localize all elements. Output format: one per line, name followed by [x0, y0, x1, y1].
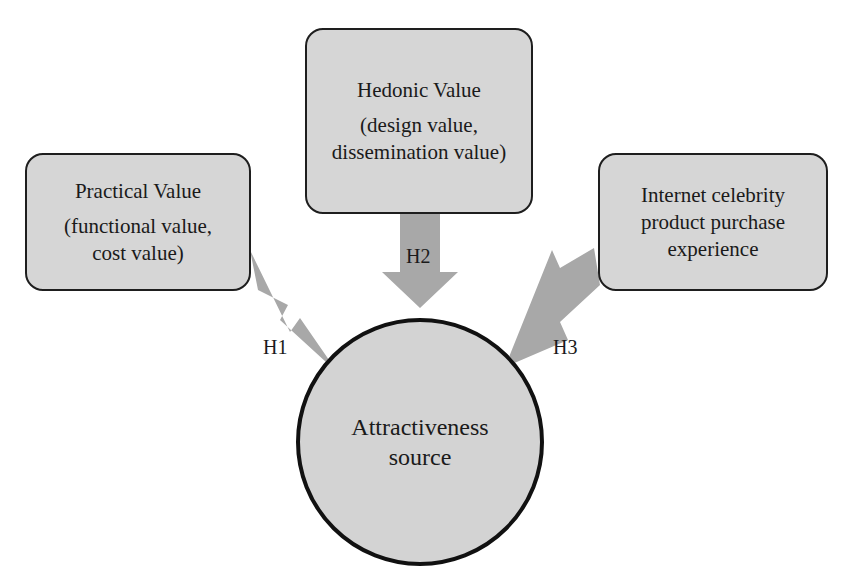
practical-value-detail-1: (functional value, [64, 213, 212, 240]
hedonic-value-detail-1: (design value, [360, 112, 478, 139]
diagram-canvas: Hedonic Value (design value, disseminati… [0, 0, 850, 587]
hedonic-value-box: Hedonic Value (design value, disseminati… [305, 28, 533, 214]
hedonic-value-detail-2: dissemination value) [332, 139, 506, 166]
purchase-experience-box: Internet celebrity product purchase expe… [598, 153, 828, 291]
purchase-experience-line-3: experience [668, 236, 759, 263]
hedonic-value-title: Hedonic Value [357, 77, 481, 104]
hypothesis-label-h2: H2 [406, 246, 430, 266]
attractiveness-source-line-2: source [389, 442, 452, 472]
practical-value-title: Practical Value [75, 178, 201, 205]
attractiveness-source-circle: Attractiveness source [296, 318, 544, 566]
hypothesis-label-h1: H1 [263, 337, 287, 357]
practical-value-box: Practical Value (functional value, cost … [25, 153, 251, 291]
purchase-experience-line-2: product purchase [641, 209, 785, 236]
purchase-experience-line-1: Internet celebrity [641, 182, 785, 209]
hypothesis-label-h3: H3 [553, 337, 577, 357]
practical-value-detail-2: cost value) [92, 240, 184, 267]
attractiveness-source-line-1: Attractiveness [351, 412, 488, 442]
